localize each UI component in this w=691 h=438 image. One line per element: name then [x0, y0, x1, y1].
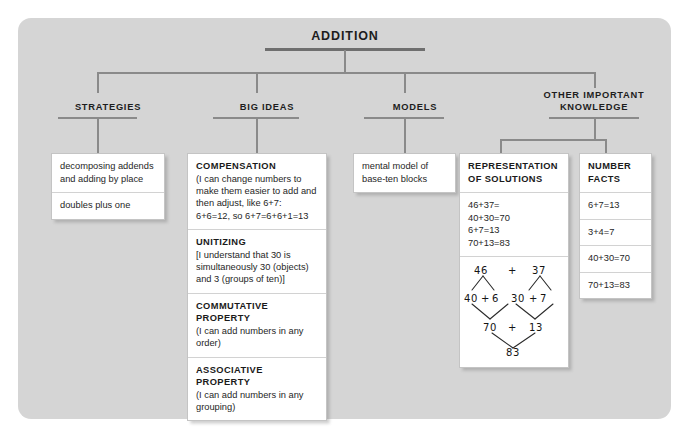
models-item: mental model of base-ten blocks	[354, 154, 455, 192]
tree-lower-operator: +	[508, 322, 517, 333]
tree-mid-left-a: 40	[464, 293, 478, 304]
connector-drop-big-ideas	[256, 72, 258, 93]
connector-main-bus	[97, 72, 596, 74]
number-fact-item: 3+4=7	[580, 220, 651, 247]
big-idea-heading: COMMUTATIVE PROPERTY	[196, 300, 318, 325]
strategies-item-text: decomposing addends and adding by place	[60, 160, 156, 185]
big-idea-body: (I can change numbers to make them easie…	[196, 173, 318, 223]
representation-equation: 6+7=13	[468, 224, 560, 237]
tree-result: 83	[506, 347, 520, 358]
tree-lower-right: 13	[529, 322, 543, 333]
big-idea-heading: COMPENSATION	[196, 160, 318, 173]
column-title-models: MODELS	[315, 101, 515, 113]
number-facts-box: NUMBER FACTS 6+7=13 3+4=7 40+30=70 70+13…	[579, 153, 652, 299]
tree-lower-left: 70	[483, 322, 497, 333]
representation-equation: 40+30=70	[468, 212, 560, 225]
representation-heading-line2: OF SOLUTIONS	[468, 173, 560, 186]
connector-drop-strategies	[97, 72, 99, 93]
big-idea-body: [I understand that 30 is simultaneously …	[196, 249, 318, 286]
tree-mid-right-b: 7	[540, 293, 547, 304]
number-facts-heading: NUMBER FACTS	[580, 154, 651, 193]
connector-other-knowledge-stem	[594, 117, 596, 140]
representation-equations: 46+37= 40+30=70 6+7=13 70+13=83	[460, 193, 568, 256]
representation-equation: 46+37=	[468, 199, 560, 212]
number-fact-text: 40+30=70	[588, 252, 643, 265]
decomposition-tree: 46 + 37 40 + 6 30 + 7 70 + 13 83	[460, 256, 568, 367]
connector-drop-representation	[500, 139, 502, 153]
strategies-item: doubles plus one	[52, 193, 164, 219]
connector-models-stem	[404, 117, 406, 153]
column-title-other-knowledge-line2: KNOWLEDGE	[494, 101, 691, 113]
root-node-title: ADDITION	[265, 29, 425, 43]
connector-root-stem	[344, 50, 346, 73]
big-idea-heading: UNITIZING	[196, 236, 318, 249]
connector-drop-number-facts	[605, 139, 607, 153]
number-fact-item: 70+13=83	[580, 273, 651, 299]
representation-equation: 70+13=83	[468, 237, 560, 250]
big-idea-commutative-property: COMMUTATIVE PROPERTY (I can add numbers …	[188, 294, 326, 358]
big-idea-associative-property: ASSOCIATIVE PROPERTY (I can add numbers …	[188, 358, 326, 421]
big-idea-body: (I can add numbers in any grouping)	[196, 389, 318, 414]
tree-top-operator: +	[508, 265, 517, 276]
big-idea-compensation: COMPENSATION (I can change numbers to ma…	[188, 154, 326, 230]
connector-strategies-stem	[97, 117, 99, 153]
strategies-item-text: doubles plus one	[60, 199, 156, 212]
number-fact-item: 6+7=13	[580, 193, 651, 220]
number-fact-text: 3+4=7	[588, 226, 643, 239]
tree-top-right: 37	[532, 265, 546, 276]
representation-of-solutions-box: REPRESENTATION OF SOLUTIONS 46+37= 40+30…	[459, 153, 569, 368]
big-idea-heading: ASSOCIATIVE PROPERTY	[196, 364, 318, 389]
diagram-canvas: ADDITION STRATEGIES BIG IDEAS MODELS OTH…	[0, 0, 691, 438]
tree-mid-right-op: +	[529, 293, 538, 304]
representation-heading: REPRESENTATION OF SOLUTIONS	[460, 154, 568, 193]
strategies-item: decomposing addends and adding by place	[52, 154, 164, 193]
big-ideas-box: COMPENSATION (I can change numbers to ma…	[187, 153, 327, 421]
number-fact-text: 70+13=83	[588, 279, 643, 292]
models-box: mental model of base-ten blocks	[353, 153, 456, 193]
tree-mid-right-a: 30	[511, 293, 525, 304]
connector-big-ideas-stem	[256, 117, 258, 153]
big-idea-body: (I can add numbers in any order)	[196, 325, 318, 350]
number-facts-heading-line1: NUMBER	[588, 160, 643, 173]
big-idea-unitizing: UNITIZING [I understand that 30 is simul…	[188, 230, 326, 294]
strategies-box: decomposing addends and adding by place …	[51, 153, 165, 220]
number-facts-heading-line2: FACTS	[588, 173, 643, 186]
representation-heading-line1: REPRESENTATION	[468, 160, 560, 173]
connector-other-knowledge-bus	[500, 139, 607, 141]
tree-mid-left-b: 6	[492, 293, 499, 304]
connector-drop-models	[404, 72, 406, 93]
column-title-other-knowledge-line1: OTHER IMPORTANT	[494, 89, 691, 101]
tree-mid-left-op: +	[481, 293, 490, 304]
connector-drop-other-knowledge	[594, 72, 596, 88]
number-fact-text: 6+7=13	[588, 199, 643, 212]
decomposition-tree-lines	[464, 263, 566, 359]
decomposition-tree-graphic: 46 + 37 40 + 6 30 + 7 70 + 13 83	[464, 263, 564, 359]
number-fact-item: 40+30=70	[580, 246, 651, 273]
models-item-text: mental model of base-ten blocks	[362, 160, 447, 185]
tree-top-left: 46	[474, 265, 488, 276]
